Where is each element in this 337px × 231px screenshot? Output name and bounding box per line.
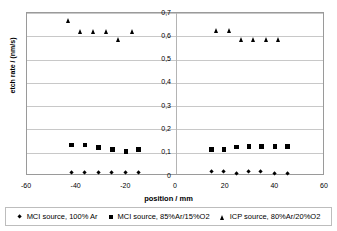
diamond-marker-icon <box>17 213 24 220</box>
y-tick-label: 0,5 <box>149 55 171 62</box>
chart-legend: MCI source, 100% Ar MCI source, 85%Ar/15… <box>5 207 332 226</box>
gridline-horizontal <box>27 153 323 154</box>
value-axis-line <box>176 13 177 174</box>
gridline-horizontal <box>27 83 323 84</box>
y-axis-title: etch rate / (nm/s) <box>9 26 16 106</box>
plot-area <box>26 12 324 175</box>
legend-item-mci-ar: MCI source, 100% Ar <box>17 212 98 221</box>
x-tick-label: 20 <box>212 182 238 189</box>
gridline-horizontal <box>27 106 323 107</box>
legend-label: MCI source, 85%Ar/15%O2 <box>118 212 210 221</box>
legend-item-mci-ar-o2: MCI source, 85%Ar/15%O2 <box>108 212 210 221</box>
x-tick-label: 40 <box>261 182 287 189</box>
y-tick-label: 0,4 <box>149 78 171 85</box>
x-axis-title: position / mm <box>0 194 337 203</box>
x-tick-label: -40 <box>63 182 89 189</box>
gridline-horizontal <box>27 60 323 61</box>
x-tick-label: -60 <box>13 182 39 189</box>
gridline-horizontal <box>27 129 323 130</box>
x-tick-label: 0 <box>162 182 188 189</box>
x-tick-label: -20 <box>112 182 138 189</box>
legend-item-icp-ar-o2: ICP source, 80%Ar/20%O2 <box>220 212 321 221</box>
triangle-marker-icon <box>220 213 227 220</box>
square-marker-icon <box>108 213 115 220</box>
y-tick-label: 0,6 <box>149 32 171 39</box>
legend-label: ICP source, 80%Ar/20%O2 <box>230 212 321 221</box>
y-tick-label: 0,7 <box>149 9 171 16</box>
y-tick-label: 0 <box>149 172 171 179</box>
chart-figure: 00,10,20,30,40,50,60,7 -60-40-200204060 … <box>0 0 337 231</box>
legend-label: MCI source, 100% Ar <box>27 212 98 221</box>
y-tick-label: 0,3 <box>149 102 171 109</box>
x-tick-label: 60 <box>311 182 337 189</box>
gridline-horizontal <box>27 13 323 14</box>
y-tick-label: 0,2 <box>149 125 171 132</box>
y-tick-label: 0,1 <box>149 148 171 155</box>
